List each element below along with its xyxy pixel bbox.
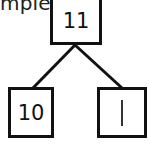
right-connector-line [75, 45, 122, 88]
part-box-right [97, 87, 147, 138]
tally-mark-one [121, 100, 123, 126]
left-connector-line [33, 45, 75, 88]
part-box-left: 10 [8, 87, 54, 138]
whole-box: 11 [50, 0, 102, 45]
whole-value: 11 [63, 9, 90, 33]
part-left-value: 10 [18, 101, 45, 125]
